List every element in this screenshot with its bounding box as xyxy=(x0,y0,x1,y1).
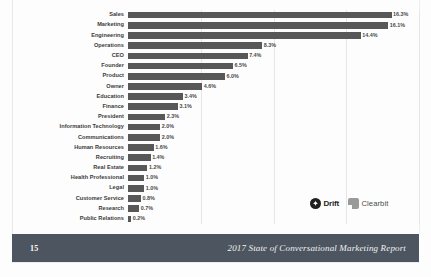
bar-value-label: 1.6% xyxy=(155,145,167,150)
bar xyxy=(128,63,233,70)
chart-bar-row: Operations8.3% xyxy=(128,41,419,51)
bar-value-label: 16.3% xyxy=(393,12,408,17)
bar xyxy=(128,22,388,29)
bar-category-label: Legal xyxy=(109,185,124,191)
bar-category-label: Recruiting xyxy=(96,155,124,161)
bar-category-label: Health Professional xyxy=(71,175,124,181)
bar-value-label: 0.8% xyxy=(142,196,154,201)
chart-bar-row: Real Estate1.2% xyxy=(128,163,419,173)
bar-value-label: 0.2% xyxy=(133,216,145,221)
chart-bar-row: Marketing16.1% xyxy=(128,20,419,30)
chart-bar-row: Owner4.6% xyxy=(128,81,419,91)
bar-category-label: CEO xyxy=(112,53,124,59)
drift-logo: Drift xyxy=(310,198,339,209)
bar-category-label: Engineering xyxy=(91,33,124,39)
report-page: Sales16.3%Marketing16.1%Engineering14.4%… xyxy=(0,0,431,277)
chart-bar-row: Sales16.3% xyxy=(128,10,419,20)
bar-value-label: 4.6% xyxy=(204,84,216,89)
chart-bar-row: CEO7.4% xyxy=(128,51,419,61)
bar xyxy=(128,124,160,131)
bar-value-label: 14.4% xyxy=(362,33,377,38)
bar-category-label: Customer Service xyxy=(76,196,124,202)
bar-value-label: 0.7% xyxy=(141,206,153,211)
clearbit-logo: Clearbit xyxy=(348,198,388,209)
bar xyxy=(128,93,183,100)
clearbit-square-icon xyxy=(348,198,359,209)
page-footer: 15 2017 State of Conversational Marketin… xyxy=(12,234,419,262)
chart-bar-row: Legal1.0% xyxy=(128,183,419,193)
bar xyxy=(128,165,147,172)
bar-value-label: 1.0% xyxy=(146,175,158,180)
bar xyxy=(128,83,202,90)
bar xyxy=(128,103,178,110)
chart-bar-row: Recruiting1.4% xyxy=(128,153,419,163)
bar xyxy=(128,12,392,19)
bar-category-label: Product xyxy=(103,73,124,79)
bar-value-label: 6.5% xyxy=(235,63,247,68)
bar xyxy=(128,205,139,212)
drift-circle-icon xyxy=(310,198,321,209)
clearbit-wordmark: Clearbit xyxy=(361,200,388,208)
bar-category-label: Operations xyxy=(94,43,124,49)
bar-category-label: President xyxy=(98,114,124,120)
bar-category-label: Sales xyxy=(109,12,124,18)
bar-value-label: 2.0% xyxy=(162,135,174,140)
bar-category-label: Communications xyxy=(78,135,124,141)
footer-page-number: 15 xyxy=(30,244,39,253)
bar-category-label: Education xyxy=(97,94,125,100)
chart-bar-rows: Sales16.3%Marketing16.1%Engineering14.4%… xyxy=(128,10,419,224)
sponsor-logos: Drift Clearbit xyxy=(310,198,388,209)
chart-plot-area: Sales16.3%Marketing16.1%Engineering14.4%… xyxy=(128,10,419,224)
bar xyxy=(128,216,131,223)
bar-value-label: 7.4% xyxy=(249,53,261,58)
chart-bar-row: Public Relations0.2% xyxy=(128,214,419,224)
bar-category-label: Human Resources xyxy=(74,145,124,151)
bar xyxy=(128,32,361,39)
bar xyxy=(128,195,141,202)
bar-value-label: 1.0% xyxy=(146,186,158,191)
bar xyxy=(128,134,160,141)
chart-bar-row: Information Technology2.0% xyxy=(128,122,419,132)
bar-category-label: Real Estate xyxy=(93,165,124,171)
bar-category-label: Owner xyxy=(106,84,124,90)
chart-bar-row: Communications2.0% xyxy=(128,132,419,142)
bar-value-label: 3.4% xyxy=(184,94,196,99)
chart-bar-row: President2.3% xyxy=(128,112,419,122)
footer-report-title: 2017 State of Conversational Marketing R… xyxy=(228,243,406,253)
bar-value-label: 2.3% xyxy=(167,114,179,119)
chart-bar-row: Founder6.5% xyxy=(128,61,419,71)
bar-value-label: 16.1% xyxy=(390,23,405,28)
bar-category-label: Public Relations xyxy=(80,216,124,222)
bar-category-label: Finance xyxy=(103,104,125,110)
drift-wordmark: Drift xyxy=(324,200,339,208)
bar-category-label: Founder xyxy=(101,63,124,69)
page-right-rule xyxy=(419,0,420,234)
bar xyxy=(128,144,154,151)
page-bottom-edge xyxy=(12,262,419,263)
bar-category-label: Research xyxy=(98,206,124,212)
bar-value-label: 1.4% xyxy=(152,155,164,160)
bar-value-label: 2.0% xyxy=(162,124,174,129)
bar xyxy=(128,42,262,49)
chart-bar-row: Human Resources1.6% xyxy=(128,142,419,152)
chart-bar-row: Health Professional1.0% xyxy=(128,173,419,183)
bar-value-label: 8.3% xyxy=(264,43,276,48)
chart-bar-row: Education3.4% xyxy=(128,92,419,102)
bar-category-label: Information Technology xyxy=(60,124,124,130)
bar xyxy=(128,175,144,182)
bar xyxy=(128,73,225,80)
bar xyxy=(128,154,151,161)
bar-category-label: Marketing xyxy=(97,22,124,28)
bar xyxy=(128,114,165,121)
chart-bar-row: Product6.0% xyxy=(128,71,419,81)
bar-value-label: 6.0% xyxy=(227,74,239,79)
bar xyxy=(128,185,144,192)
bar-value-label: 1.2% xyxy=(149,165,161,170)
job-title-bar-chart: Sales16.3%Marketing16.1%Engineering14.4%… xyxy=(12,6,419,228)
chart-bar-row: Finance3.1% xyxy=(128,102,419,112)
bar-value-label: 3.1% xyxy=(180,104,192,109)
chart-bar-row: Engineering14.4% xyxy=(128,30,419,40)
bar xyxy=(128,53,248,60)
